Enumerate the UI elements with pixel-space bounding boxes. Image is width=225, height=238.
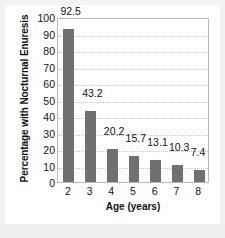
bar — [107, 149, 118, 182]
x-tick-label: 7 — [174, 185, 180, 197]
bar — [172, 165, 183, 182]
y-tick-label: 20 — [43, 144, 55, 156]
y-tick-label: 0 — [49, 177, 55, 189]
x-axis-title: Age (years) — [57, 201, 209, 212]
x-tick-label: 8 — [195, 185, 201, 197]
plot-area: 92.543.220.215.713.110.37.4 — [57, 18, 209, 183]
y-tick-label: 40 — [43, 111, 55, 123]
bar — [63, 29, 74, 182]
bar-value-label: 92.5 — [60, 5, 80, 17]
y-tick-label: 30 — [43, 128, 55, 140]
bar-value-label: 7.4 — [191, 146, 206, 158]
y-tick-label: 50 — [43, 95, 55, 107]
x-tick-label: 4 — [108, 185, 114, 197]
bar-value-label: 15.7 — [126, 132, 146, 144]
bar-group: 20.2 — [107, 19, 118, 182]
y-tick-label: 70 — [43, 62, 55, 74]
x-tick-label: 5 — [130, 185, 136, 197]
bar-group: 10.3 — [172, 19, 183, 182]
page-edge-right — [220, 0, 225, 238]
x-tick-label: 2 — [65, 185, 71, 197]
bar-group: 92.5 — [63, 19, 74, 182]
bar-group: 13.1 — [150, 19, 161, 182]
y-tick-label: 60 — [43, 78, 55, 90]
y-tick-label: 100 — [37, 12, 55, 24]
x-tick-label: 3 — [87, 185, 93, 197]
bar-value-label: 43.2 — [82, 87, 102, 99]
x-tick-label: 6 — [152, 185, 158, 197]
bar-value-label: 10.3 — [169, 141, 189, 153]
bar-chart-figure: Percentage with Nocturnal Enuresis 10090… — [5, 5, 220, 224]
y-tick-label: 80 — [43, 45, 55, 57]
x-axis-tick-labels: 2345678 — [57, 185, 209, 199]
bar-value-label: 13.1 — [147, 136, 167, 148]
bar — [129, 156, 140, 182]
bar-group: 7.4 — [194, 19, 205, 182]
bar-series: 92.543.220.215.713.110.37.4 — [58, 19, 208, 182]
y-tick-label: 10 — [43, 161, 55, 173]
bar-group: 15.7 — [129, 19, 140, 182]
y-axis-tick-labels: 1009080706050403020100 — [21, 18, 55, 183]
page-edge-bottom — [0, 224, 225, 238]
y-tick-label: 90 — [43, 29, 55, 41]
bar-group: 43.2 — [85, 19, 96, 182]
chart-screenshot: Percentage with Nocturnal Enuresis 10090… — [0, 0, 225, 238]
bar — [194, 170, 205, 182]
bar — [85, 111, 96, 182]
bar — [150, 160, 161, 182]
bar-value-label: 20.2 — [104, 125, 124, 137]
